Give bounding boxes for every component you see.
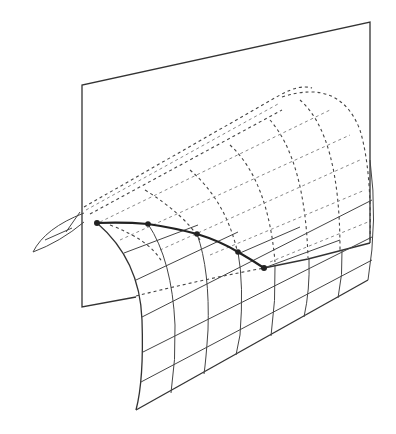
curve-point-5 — [261, 265, 267, 271]
intersection-curve — [94, 220, 267, 271]
curve-point-2 — [145, 221, 151, 227]
curve-point-4 — [235, 249, 241, 255]
left-flap — [33, 212, 84, 252]
curve-point-3 — [194, 231, 200, 237]
surface-plane-diagram — [0, 0, 396, 434]
hidden-surface-grid — [84, 87, 370, 296]
visible-surface-grid — [97, 160, 374, 410]
curve-point-1 — [94, 220, 100, 226]
cutting-plane — [82, 22, 370, 307]
